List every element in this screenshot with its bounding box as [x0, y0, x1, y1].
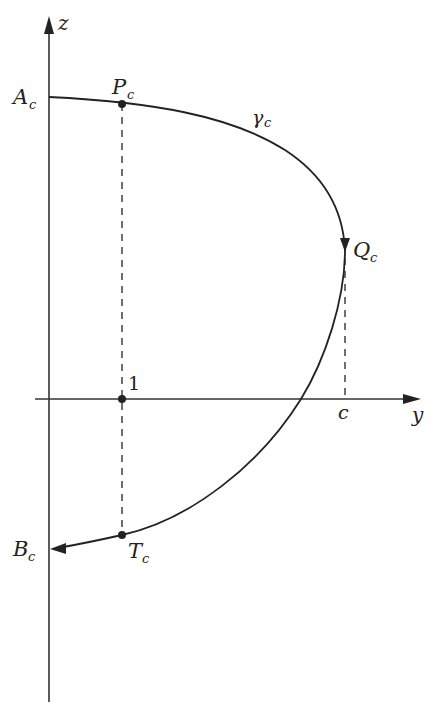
z-axis: [44, 16, 54, 702]
label-p: P c: [111, 75, 135, 102]
tick-label-one: 1: [128, 372, 140, 394]
curve-end-arrow-icon: [50, 543, 66, 554]
z-axis-label: z: [57, 11, 69, 35]
label-a-sub: c: [29, 97, 37, 112]
label-b: B c: [12, 537, 36, 564]
y-axis: [35, 394, 421, 404]
label-gamma-sub: c: [264, 115, 272, 130]
z-axis-arrow-icon: [44, 16, 54, 34]
point-one: [118, 395, 126, 403]
curve-gamma-upper: [49, 97, 345, 250]
diagram-canvas: z y 1 c A c P c γ c Q c T c B c: [0, 0, 434, 724]
label-gamma-main: γ: [252, 106, 264, 128]
label-a: A c: [11, 85, 37, 112]
label-p-sub: c: [127, 87, 135, 102]
label-p-main: P: [111, 75, 127, 99]
label-b-sub: c: [28, 549, 36, 564]
tick-label-c: c: [338, 401, 349, 423]
point-t: [118, 531, 126, 539]
curve-direction-arrow-icon: [340, 238, 350, 252]
y-axis-label: y: [411, 403, 424, 427]
label-b-main: B: [12, 537, 28, 561]
label-gamma: γ c: [252, 106, 272, 130]
label-t: T c: [128, 539, 150, 566]
label-t-sub: c: [142, 551, 150, 566]
label-q-sub: c: [370, 250, 378, 265]
point-p: [118, 100, 126, 108]
label-q-main: Q: [353, 238, 370, 262]
label-q: Q c: [353, 238, 378, 265]
label-a-main: A: [11, 85, 28, 109]
